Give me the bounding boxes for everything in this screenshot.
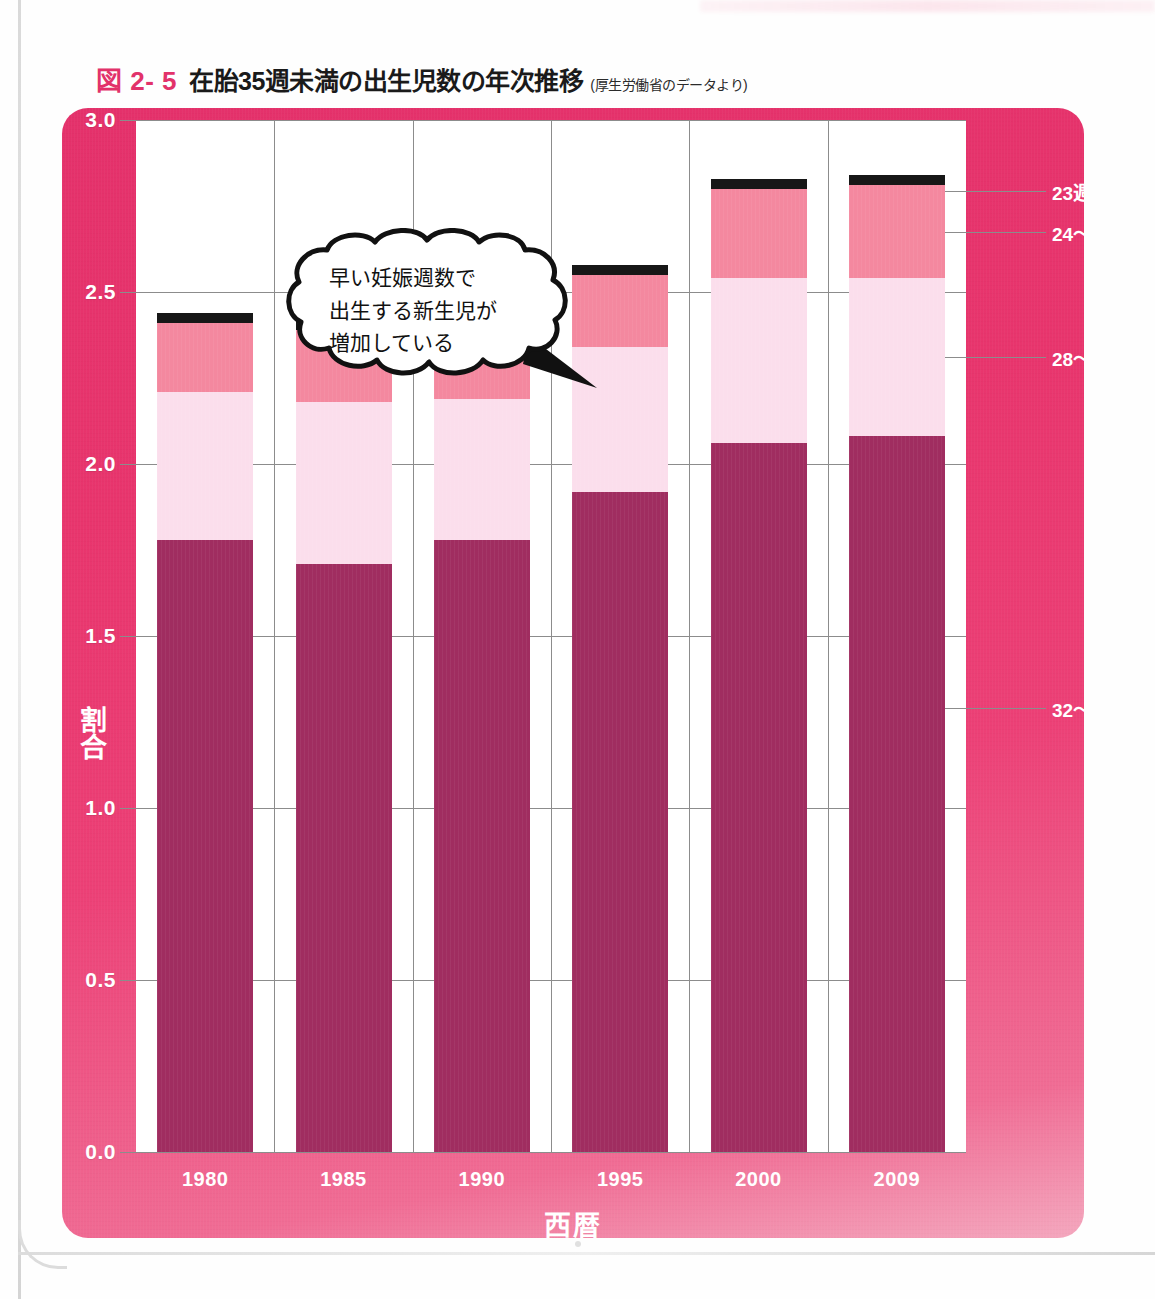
annotation-text: 早い妊娠週数で 出生する新生児が 増加している xyxy=(329,262,579,360)
legend-label-32〜35週: 32〜35週 xyxy=(1052,695,1084,722)
bar-segment-32〜35週[interactable] xyxy=(711,443,807,1152)
bar-segment-28〜31週[interactable] xyxy=(157,392,253,540)
bar-segment-32〜35週[interactable] xyxy=(572,492,668,1152)
bar-segment-23週以下[interactable] xyxy=(711,179,807,189)
legend-leader-line-24〜27週 xyxy=(945,232,1046,233)
bar-1980[interactable] xyxy=(157,323,253,1152)
legend-label-23週以下: 23週以下 xyxy=(1052,178,1084,205)
figure-number: 図 2- 5 xyxy=(96,60,177,97)
figure-title-row: 図 2- 5 在胎35週未満の出生児数の年次推移 (厚生労働省のデータより) xyxy=(96,60,996,94)
bar-segment-28〜31週[interactable] xyxy=(711,278,807,443)
x-axis-label-1985: 1985 xyxy=(284,1168,404,1191)
annotation-line-2: 出生する新生児が xyxy=(329,295,579,328)
bar-segment-23週以下[interactable] xyxy=(157,313,253,323)
annotation-line-1: 早い妊娠週数で xyxy=(329,262,579,295)
y-tick-3.0 xyxy=(120,120,136,121)
x-axis-label-2009: 2009 xyxy=(837,1168,957,1191)
bar-segment-28〜31週[interactable] xyxy=(849,278,945,436)
y-axis-label-2.0: 2.0 xyxy=(85,452,116,476)
bar-segment-24〜27週[interactable] xyxy=(157,323,253,392)
bar-segment-23週以下[interactable] xyxy=(849,175,945,185)
bar-2000[interactable] xyxy=(711,189,807,1152)
x-axis-label-1980: 1980 xyxy=(145,1168,265,1191)
bar-segment-28〜31週[interactable] xyxy=(434,399,530,540)
bar-segment-32〜35週[interactable] xyxy=(296,564,392,1152)
y-tick-1.5 xyxy=(120,636,136,637)
y-tick-0.0 xyxy=(120,1152,136,1153)
bar-segment-32〜35週[interactable] xyxy=(849,436,945,1152)
bar-segment-24〜27週[interactable] xyxy=(711,189,807,278)
legend-leader-line-28〜31週 xyxy=(945,357,1046,358)
y-tick-0.5 xyxy=(120,980,136,981)
page-header-strip xyxy=(700,0,1155,12)
y-tick-1.0 xyxy=(120,808,136,809)
y-axis-label-0.5: 0.5 xyxy=(85,968,116,992)
page-edge-bottom xyxy=(18,1252,1155,1255)
category-separator xyxy=(828,120,829,1152)
legend-label-24〜27週: 24〜27週 xyxy=(1052,219,1084,246)
legend-leader-line-23週以下 xyxy=(945,191,1046,192)
legend-label-28〜31週: 28〜31週 xyxy=(1052,344,1084,371)
page-edge-left xyxy=(18,0,21,1299)
y-axis-label-0.0: 0.0 xyxy=(85,1140,116,1164)
y-axis-label-3.0: 3.0 xyxy=(85,108,116,132)
x-axis-label-1995: 1995 xyxy=(560,1168,680,1191)
figure-source: (厚生労働省のデータより) xyxy=(590,74,747,94)
bar-segment-24〜27週[interactable] xyxy=(849,185,945,278)
bar-segment-32〜35週[interactable] xyxy=(157,540,253,1152)
bar-2009[interactable] xyxy=(849,185,945,1152)
page-corner-fold xyxy=(18,1220,67,1269)
y-tick-2.0 xyxy=(120,464,136,465)
bar-1985[interactable] xyxy=(296,330,392,1152)
legend-leader-line-32〜35週 xyxy=(945,708,1046,709)
category-separator xyxy=(689,120,690,1152)
x-axis-title: 西暦 xyxy=(62,1204,1084,1238)
bar-1995[interactable] xyxy=(572,275,668,1152)
bar-1990[interactable] xyxy=(434,320,530,1152)
y-axis-label-1.5: 1.5 xyxy=(85,624,116,648)
y-axis-label-2.5: 2.5 xyxy=(85,280,116,304)
y-tick-2.5 xyxy=(120,292,136,293)
x-axis-label-2000: 2000 xyxy=(699,1168,819,1191)
y-axis-label-1.0: 1.0 xyxy=(85,796,116,820)
chart-panel: 割合 0.00.51.01.52.02.53.0 198019851990199… xyxy=(62,108,1084,1238)
bar-segment-28〜31週[interactable] xyxy=(296,402,392,564)
page-canvas: 図 2- 5 在胎35週未満の出生児数の年次推移 (厚生労働省のデータより) 割… xyxy=(0,0,1155,1299)
x-axis-label-1990: 1990 xyxy=(422,1168,542,1191)
page-center-mark xyxy=(575,1241,581,1247)
bar-segment-32〜35週[interactable] xyxy=(434,540,530,1152)
annotation-line-3: 増加している xyxy=(329,327,579,360)
page-title: 在胎35週未満の出生児数の年次推移 xyxy=(189,61,583,97)
annotation-callout: 早い妊娠週数で 出生する新生児が 増加している xyxy=(267,228,617,403)
y-axis-title: 割合 xyxy=(76,708,110,762)
